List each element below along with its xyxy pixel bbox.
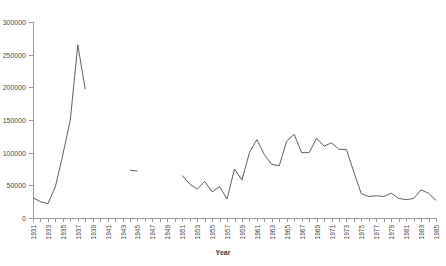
x-tick-mark bbox=[287, 218, 288, 222]
x-tick-mark bbox=[257, 218, 258, 222]
x-tick-label: 1951 bbox=[179, 225, 186, 239]
x-tick-label: 1955 bbox=[209, 225, 216, 239]
x-tick-mark bbox=[115, 218, 116, 222]
x-tick-mark bbox=[205, 218, 206, 222]
x-tick-label: 1949 bbox=[164, 225, 171, 239]
x-tick-mark bbox=[339, 218, 340, 222]
x-tick-label: 1979 bbox=[388, 225, 395, 239]
x-tick-mark bbox=[85, 218, 86, 222]
x-tick-mark bbox=[279, 218, 280, 222]
x-tick-mark bbox=[78, 218, 79, 222]
x-tick-label: 1953 bbox=[194, 225, 201, 239]
x-tick-mark bbox=[361, 218, 362, 222]
x-tick-mark bbox=[399, 218, 400, 222]
x-tick-mark bbox=[40, 218, 41, 222]
x-tick-label: 1943 bbox=[119, 225, 126, 239]
x-tick-label: 1981 bbox=[403, 225, 410, 239]
y-tick-label: 0 bbox=[22, 215, 26, 222]
line-chart: 050000100000150000200000250000300000 193… bbox=[0, 0, 446, 266]
x-tick-mark bbox=[436, 218, 437, 222]
y-tick-label: 250000 bbox=[3, 51, 26, 58]
series-segment bbox=[182, 134, 436, 200]
x-tick-label: 1941 bbox=[104, 225, 111, 239]
x-tick-mark bbox=[324, 218, 325, 222]
x-tick-label: 1933 bbox=[44, 225, 51, 239]
x-tick-mark bbox=[302, 218, 303, 222]
x-tick-label: 1939 bbox=[89, 225, 96, 239]
x-tick-mark bbox=[48, 218, 49, 222]
x-tick-mark bbox=[369, 218, 370, 222]
x-tick-label: 1959 bbox=[238, 225, 245, 239]
x-tick-mark bbox=[406, 218, 407, 222]
x-tick-mark bbox=[160, 218, 161, 222]
x-tick-mark bbox=[332, 218, 333, 222]
x-tick-mark bbox=[309, 218, 310, 222]
x-tick-mark bbox=[33, 218, 34, 222]
x-tick-mark bbox=[354, 218, 355, 222]
x-tick-label: 1963 bbox=[268, 225, 275, 239]
x-tick-label: 1935 bbox=[59, 225, 66, 239]
x-tick-mark bbox=[70, 218, 71, 222]
x-tick-mark bbox=[137, 218, 138, 222]
x-tick-mark bbox=[108, 218, 109, 222]
y-tick-label: 300000 bbox=[3, 19, 26, 26]
x-tick-mark bbox=[242, 218, 243, 222]
x-tick-mark bbox=[175, 218, 176, 222]
x-tick-label: 1971 bbox=[328, 225, 335, 239]
x-tick-label: 1947 bbox=[149, 225, 156, 239]
x-tick-mark bbox=[182, 218, 183, 222]
x-tick-mark bbox=[235, 218, 236, 222]
x-tick-mark bbox=[197, 218, 198, 222]
x-tick-mark bbox=[384, 218, 385, 222]
x-tick-label: 1945 bbox=[134, 225, 141, 239]
x-tick-mark bbox=[346, 218, 347, 222]
x-tick-mark bbox=[294, 218, 295, 222]
x-axis-title: Year bbox=[0, 249, 446, 256]
x-tick-mark bbox=[152, 218, 153, 222]
plot-area bbox=[33, 22, 436, 218]
x-tick-mark bbox=[63, 218, 64, 222]
x-tick-mark bbox=[55, 218, 56, 222]
x-tick-mark bbox=[190, 218, 191, 222]
x-tick-mark bbox=[212, 218, 213, 222]
x-tick-mark bbox=[123, 218, 124, 222]
x-tick-label: 1977 bbox=[373, 225, 380, 239]
x-tick-label: 1961 bbox=[253, 225, 260, 239]
y-tick-label: 200000 bbox=[3, 84, 26, 91]
data-series-line bbox=[33, 22, 436, 218]
x-tick-label: 1967 bbox=[298, 225, 305, 239]
x-tick-mark bbox=[249, 218, 250, 222]
x-tick-label: 1973 bbox=[343, 225, 350, 239]
x-tick-label: 1985 bbox=[433, 225, 440, 239]
x-tick-mark bbox=[272, 218, 273, 222]
x-tick-mark bbox=[429, 218, 430, 222]
x-tick-mark bbox=[391, 218, 392, 222]
series-segment bbox=[33, 45, 85, 204]
y-tick-label: 50000 bbox=[7, 182, 26, 189]
x-tick-label: 1983 bbox=[418, 225, 425, 239]
x-tick-label: 1975 bbox=[358, 225, 365, 239]
x-tick-label: 1969 bbox=[313, 225, 320, 239]
x-tick-mark bbox=[414, 218, 415, 222]
x-tick-mark bbox=[376, 218, 377, 222]
x-tick-label: 1957 bbox=[224, 225, 231, 239]
x-tick-mark bbox=[264, 218, 265, 222]
x-tick-mark bbox=[227, 218, 228, 222]
x-tick-label: 1931 bbox=[30, 225, 37, 239]
x-tick-mark bbox=[93, 218, 94, 222]
series-segment bbox=[130, 170, 137, 171]
x-tick-mark bbox=[100, 218, 101, 222]
y-tick-label: 100000 bbox=[3, 149, 26, 156]
x-tick-mark bbox=[421, 218, 422, 222]
x-tick-mark bbox=[220, 218, 221, 222]
x-tick-mark bbox=[317, 218, 318, 222]
y-tick-label: 150000 bbox=[3, 117, 26, 124]
x-tick-mark bbox=[145, 218, 146, 222]
x-tick-label: 1937 bbox=[74, 225, 81, 239]
x-tick-label: 1965 bbox=[283, 225, 290, 239]
x-tick-mark bbox=[167, 218, 168, 222]
x-tick-mark bbox=[130, 218, 131, 222]
